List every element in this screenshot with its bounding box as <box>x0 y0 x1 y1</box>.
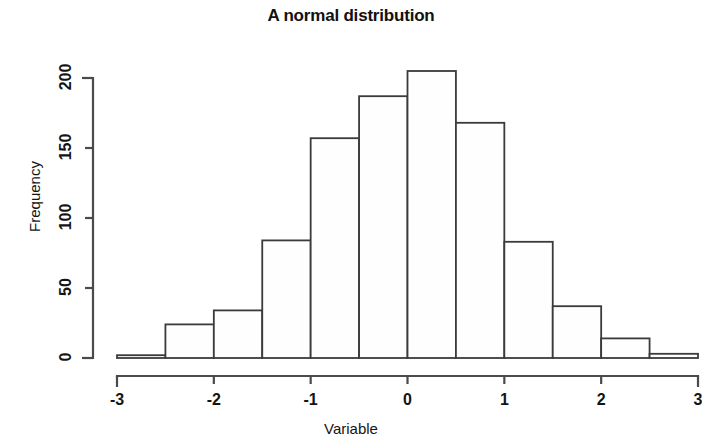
plot-area <box>0 0 702 448</box>
x-tick-label: 0 <box>403 391 412 409</box>
y-tick-label: 0 <box>57 337 75 377</box>
histogram-bar <box>456 123 504 358</box>
x-tick-label: -1 <box>304 391 318 409</box>
histogram-figure: A normal distribution 050100150200 -3-2-… <box>0 0 702 448</box>
y-axis-title: Frequency <box>26 147 43 247</box>
histogram-bar <box>553 306 601 358</box>
x-axis-title: Variable <box>0 420 702 437</box>
histogram-bar <box>650 354 698 358</box>
histogram-bar <box>359 96 407 358</box>
histogram-bar <box>601 338 649 358</box>
y-tick-label: 200 <box>57 57 75 97</box>
histogram-bar <box>311 138 359 358</box>
x-tick-label: 2 <box>597 391 606 409</box>
y-tick-label: 150 <box>57 127 75 167</box>
x-tick-label: -2 <box>207 391 221 409</box>
histogram-bar <box>408 71 456 358</box>
y-tick-label: 50 <box>57 267 75 307</box>
histogram-bar <box>214 310 262 358</box>
y-tick-label: 100 <box>57 197 75 237</box>
x-tick-label: 1 <box>500 391 509 409</box>
x-tick-label: 3 <box>694 391 702 409</box>
histogram-bars <box>117 71 698 358</box>
histogram-bar <box>262 240 310 358</box>
histogram-bar <box>504 242 552 358</box>
histogram-bar <box>165 324 213 358</box>
x-tick-label: -3 <box>110 391 124 409</box>
histogram-bar <box>117 355 165 358</box>
